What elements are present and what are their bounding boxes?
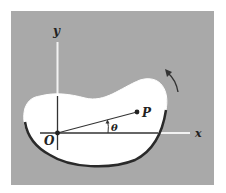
- angle-label: θ: [111, 122, 118, 133]
- y-axis-label: y: [52, 24, 61, 38]
- x-axis-label: x: [194, 127, 202, 140]
- point-label: P: [141, 106, 152, 120]
- origin-label: O: [44, 134, 55, 148]
- point-p: [135, 110, 140, 115]
- origin-point: [55, 131, 60, 136]
- rigid-body-diagram: y x O P θ: [0, 0, 226, 193]
